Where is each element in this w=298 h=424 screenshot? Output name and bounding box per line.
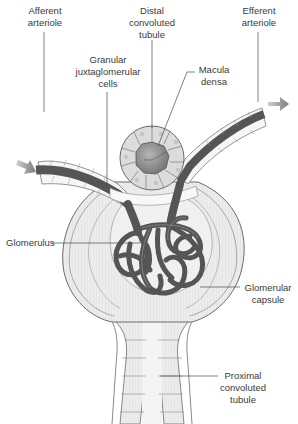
label-glomerular-capsule: Glomerular capsule: [240, 282, 296, 306]
label-line: Distal: [124, 5, 180, 17]
label-line: arteriole: [22, 17, 68, 29]
distal-tubule-shape: [120, 126, 184, 190]
label-line: Efferent: [236, 5, 282, 17]
proximal-tubule-shape: [110, 315, 194, 424]
label-granular-juxtaglomerular-cells: Granular juxtaglomerular cells: [74, 54, 142, 90]
label-line: capsule: [240, 294, 296, 306]
label-afferent-arteriole: Afferent arteriole: [22, 5, 68, 29]
label-line: tubule: [124, 29, 180, 41]
label-line: tubule: [214, 394, 272, 406]
label-line: cells: [74, 78, 142, 90]
label-line: Glomerulus: [6, 237, 55, 249]
label-line: Glomerular: [240, 282, 296, 294]
label-glomerulus: Glomerulus: [6, 237, 55, 249]
label-line: Granular: [74, 54, 142, 66]
renal-corpuscle-diagram: Afferent arteriole Distal convoluted tub…: [0, 0, 298, 424]
label-line: convoluted: [124, 17, 180, 29]
label-proximal-convoluted-tubule: Proximal convoluted tubule: [214, 370, 272, 406]
label-line: convoluted: [214, 382, 272, 394]
label-line: Macula: [194, 64, 234, 76]
label-macula-densa: Macula densa: [194, 64, 234, 88]
outflow-arrow-icon: [268, 97, 289, 111]
label-line: Afferent: [22, 5, 68, 17]
label-line: arteriole: [236, 17, 282, 29]
label-line: Proximal: [214, 370, 272, 382]
efferent-arteriole-shape: [176, 108, 266, 184]
label-line: densa: [194, 76, 234, 88]
inflow-arrow-icon: [16, 160, 36, 174]
label-distal-convoluted-tubule: Distal convoluted tubule: [124, 5, 180, 41]
diagram-illustration: [0, 0, 298, 424]
label-efferent-arteriole: Efferent arteriole: [236, 5, 282, 29]
label-line: juxtaglomerular: [74, 66, 142, 78]
